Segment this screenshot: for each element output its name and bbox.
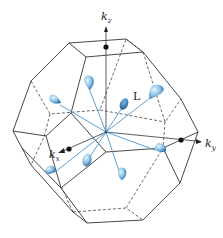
ky-arrow-icon — [196, 139, 202, 144]
ky-label: ky — [205, 137, 217, 152]
kz-label: kz — [101, 10, 112, 25]
kx-point — [66, 146, 71, 151]
pocket-upper-left — [84, 75, 94, 90]
pocket-left-upper — [49, 94, 61, 103]
axis-labels: kz ky kx L — [49, 10, 217, 163]
pocket-bottom — [118, 168, 126, 180]
pocket-upper-right — [149, 85, 164, 99]
brillouin-zone-diagram: kz ky kx L — [0, 0, 223, 238]
kx-arrow-icon — [58, 148, 65, 153]
kz-arrow-icon — [104, 26, 108, 32]
pocket-left-lower — [45, 166, 55, 174]
axes — [58, 26, 202, 153]
fermi-pockets — [45, 75, 166, 180]
pocket-L — [118, 97, 130, 111]
ky-point — [178, 137, 183, 142]
pocket-right-lower — [155, 143, 167, 152]
l-point-label: L — [133, 90, 141, 103]
kz-point — [103, 44, 108, 49]
kx-label: kx — [49, 148, 60, 163]
